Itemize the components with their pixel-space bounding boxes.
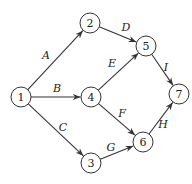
node-1: 1 — [11, 87, 31, 107]
edge-label: F — [117, 107, 126, 120]
edge-e-4-to-5 — [98, 53, 138, 90]
edge-label: H — [157, 118, 168, 131]
nodes-layer: 1234567 — [11, 13, 189, 173]
node-7: 7 — [169, 84, 189, 104]
edge-f-4-to-6 — [99, 104, 135, 136]
node-4: 4 — [81, 87, 101, 107]
node-3: 3 — [81, 153, 101, 173]
directed-graph-diagram: ABCDEFGHI 1234567 — [0, 0, 192, 184]
edge-label: B — [52, 82, 61, 95]
edge-label: A — [41, 49, 50, 62]
node-label: 6 — [140, 136, 147, 149]
node-6: 6 — [133, 132, 153, 152]
edge-label: D — [121, 21, 131, 34]
arrow-icon — [152, 54, 173, 85]
edge-label: C — [59, 121, 68, 134]
arrow-icon — [100, 146, 133, 159]
node-label: 1 — [18, 91, 25, 104]
edge-d-2-to-5 — [99, 27, 136, 42]
edge-label: I — [163, 61, 169, 74]
arrow-icon — [99, 27, 136, 42]
node-5: 5 — [136, 36, 156, 56]
arrow-icon — [28, 104, 83, 156]
node-label: 3 — [88, 157, 95, 170]
node-label: 5 — [143, 40, 150, 53]
arrow-icon — [99, 104, 135, 136]
node-label: 7 — [176, 88, 183, 101]
node-2: 2 — [80, 13, 100, 33]
edge-c-1-to-3 — [28, 104, 83, 156]
edge-label: G — [107, 141, 116, 154]
arrow-icon — [98, 53, 138, 90]
edge-g-3-to-6 — [100, 146, 133, 159]
node-label: 4 — [88, 91, 95, 104]
edge-i-5-to-7 — [152, 54, 173, 85]
edge-label: E — [107, 57, 116, 70]
node-label: 2 — [87, 17, 94, 30]
